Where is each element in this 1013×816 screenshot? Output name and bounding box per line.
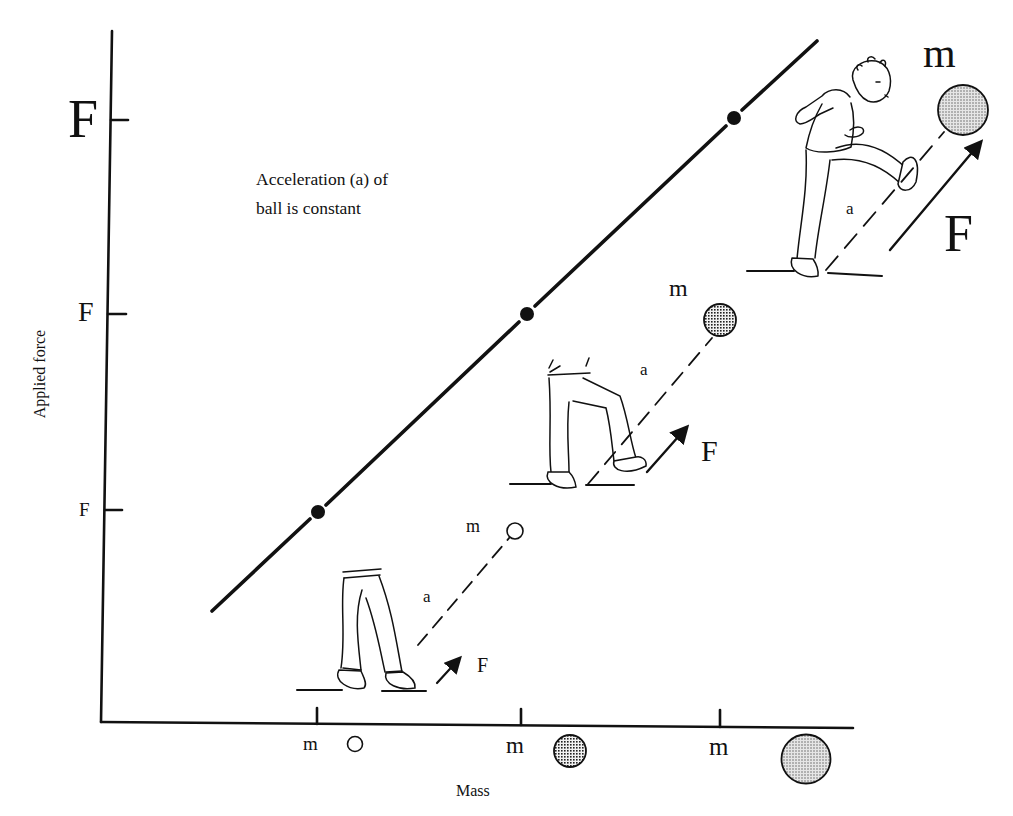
- mass-label-small: m: [466, 517, 480, 535]
- accel-label-large: a: [846, 200, 854, 217]
- scene-small: [297, 523, 523, 691]
- force-label-large: F: [944, 208, 973, 260]
- force-arrow-icon: [437, 659, 459, 683]
- y-tick-label-small: F: [79, 500, 90, 519]
- force-label-medium: F: [701, 436, 718, 466]
- data-point-1: [311, 505, 325, 519]
- annotation-line-2: ball is constant: [256, 194, 388, 223]
- x-axis: [101, 722, 853, 728]
- diagram-canvas: [0, 0, 1013, 816]
- annotation-text: Acceleration (a) of ball is constant: [256, 165, 388, 223]
- y-tick-label-large: F: [68, 92, 98, 146]
- legs-figure-medium-icon: [547, 358, 646, 488]
- accel-label-small: a: [423, 588, 431, 605]
- x-ball-large-icon: [782, 735, 831, 784]
- x-tick-label-small: m: [303, 734, 318, 753]
- accel-dashed-path: [418, 537, 510, 645]
- annotation-line-1: Acceleration (a) of: [256, 165, 388, 194]
- y-tick-label-medium: F: [78, 298, 94, 326]
- x-tick-label-medium: m: [506, 734, 524, 757]
- force-mass-diagram: F F F Applied force Mass m m m Accelerat…: [0, 0, 1013, 816]
- force-arrow-icon: [647, 428, 686, 472]
- ball-medium-icon: [704, 304, 736, 336]
- y-axis: [101, 31, 112, 722]
- x-ball-medium-icon: [554, 735, 586, 767]
- axes: [101, 31, 853, 728]
- legs-figure-small-icon: [338, 569, 415, 689]
- x-tick-label-large: m: [709, 734, 728, 759]
- data-point-2: [520, 307, 534, 321]
- mass-label-large: m: [923, 32, 956, 74]
- x-axis-title: Mass: [456, 783, 490, 799]
- x-ball-small-icon: [348, 737, 363, 752]
- accel-label-medium: a: [640, 361, 648, 378]
- ground-line: [297, 690, 426, 691]
- data-point-3: [727, 111, 741, 125]
- ball-large-icon: [938, 85, 988, 135]
- mass-label-medium: m: [669, 276, 688, 300]
- y-axis-title: Applied force: [32, 324, 48, 424]
- ball-small-icon: [507, 523, 523, 539]
- force-label-small: F: [477, 655, 488, 675]
- kicking-boy-figure-icon: [791, 57, 917, 277]
